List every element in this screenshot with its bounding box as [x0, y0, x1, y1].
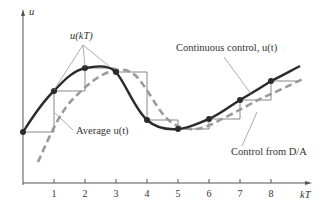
sample-dot-k3: [113, 69, 119, 75]
x-axis-label: kT: [300, 190, 311, 201]
x-tick-7: 7: [238, 189, 243, 199]
x-tick-4: 4: [145, 189, 150, 199]
sample-dot-k4: [144, 117, 150, 123]
average-label: Average u(t): [76, 126, 129, 137]
diagram-canvas: [0, 0, 326, 209]
sample-dot-k8: [268, 78, 274, 84]
x-ticks: [54, 179, 271, 183]
sample-dot-k1: [51, 88, 57, 94]
leader-ukt-k2: [83, 45, 85, 67]
x-tick-6: 6: [207, 189, 212, 199]
leader-ukt-k3: [83, 45, 109, 66]
samples-label: u(kT): [70, 31, 93, 42]
axes: [21, 9, 312, 185]
x-tick-1: 1: [52, 189, 57, 199]
x-tick-5: 5: [176, 189, 181, 199]
leader-da: [242, 112, 257, 146]
x-tick-3: 3: [114, 189, 119, 199]
sample-dot-k6: [206, 116, 212, 122]
x-tick-2: 2: [83, 189, 88, 199]
continuous-label: Continuous control, u(t): [176, 43, 277, 54]
x-axis-arrow-icon: [305, 181, 312, 185]
x-tick-8: 8: [269, 189, 274, 199]
y-axis-arrow-icon: [21, 9, 25, 16]
y-axis-label: u: [29, 7, 34, 18]
leader-continuous: [224, 57, 251, 94]
sample-dot-k0: [20, 129, 26, 135]
sample-dot-k5: [175, 126, 181, 132]
sample-dot-k7: [237, 97, 243, 103]
da-label: Control from D/A: [231, 147, 307, 158]
leader-ukt-k1: [54, 45, 83, 90]
